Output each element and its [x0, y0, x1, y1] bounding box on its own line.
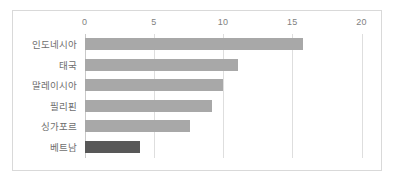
plot-area: 0 5 10 15 20 인도네시아 태국 말레이시아 필리핀 싱가포르 베트남 — [13, 11, 381, 170]
chart-frame: 0 5 10 15 20 인도네시아 태국 말레이시아 필리핀 싱가포르 베트남 — [12, 10, 382, 171]
category-label-philippines: 필리핀 — [50, 101, 77, 113]
category-label-vietnam: 베트남 — [50, 142, 77, 154]
category-label-indonesia: 인도네시아 — [32, 39, 77, 51]
x-tick-label-20: 20 — [356, 17, 366, 27]
bar-philippines — [85, 100, 212, 112]
gridline-15 — [292, 34, 293, 158]
category-label-singapore: 싱가포르 — [41, 121, 77, 133]
axis-baseline-0 — [85, 34, 86, 158]
category-label-malaysia: 말레이시아 — [32, 80, 77, 92]
bar-vietnam — [85, 141, 140, 153]
x-tick-label-10: 10 — [218, 17, 228, 27]
gridline-10 — [223, 34, 224, 158]
bar-indonesia — [85, 38, 304, 50]
x-tick-label-0: 0 — [82, 17, 87, 27]
gridline-20 — [362, 34, 363, 158]
x-tick-label-15: 15 — [287, 17, 297, 27]
category-label-thailand: 태국 — [59, 60, 77, 72]
bar-thailand — [85, 59, 239, 71]
gridline-5 — [154, 34, 155, 158]
x-tick-label-5: 5 — [151, 17, 156, 27]
bar-singapore — [85, 120, 190, 132]
bar-malaysia — [85, 79, 224, 91]
